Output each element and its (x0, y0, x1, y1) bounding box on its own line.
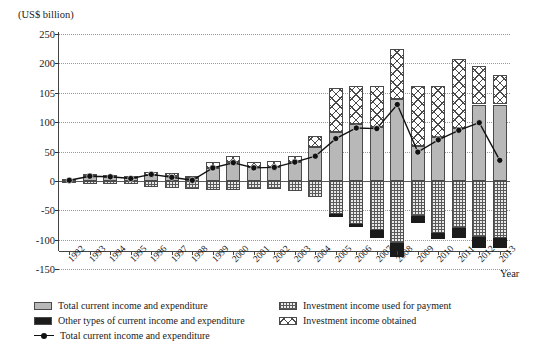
line-path-total-current-income-expenditure (69, 105, 500, 181)
y-axis-unit-label: (US$ billion) (18, 9, 74, 20)
line-marker-2012 (476, 120, 482, 126)
y-tick-label-50: 50 (45, 146, 56, 157)
line-marker-2007 (374, 126, 380, 132)
line-marker-2003 (292, 159, 298, 165)
y-axis-tick-labels: 250200105100500-50-100-150 (0, 34, 55, 269)
legend-label: Total current income and expenditure (60, 330, 210, 341)
line-marker-1992 (66, 177, 72, 183)
chart-legend: Total current income and expenditureOthe… (34, 300, 504, 348)
y-tick-label-100: 100 (39, 117, 55, 128)
line-marker-2000 (230, 160, 236, 166)
line-marker-2001 (251, 165, 257, 171)
line-marker-2013 (497, 157, 503, 163)
y-tick-label--50: -50 (41, 205, 55, 216)
legend-other-types-current-income-expenditure[interactable]: Other types of current income and expend… (34, 315, 245, 326)
line-marker-2009 (415, 149, 421, 155)
x-axis-tick-labels: 1992199319941995199619971998199920002001… (0, 251, 537, 299)
line-marker-1993 (87, 173, 93, 179)
legend-swatch-cross-hatch-icon (279, 317, 297, 325)
legend-swatch-dotted-hatch-icon (279, 302, 297, 310)
line-marker-2010 (435, 137, 441, 143)
line-marker-2002 (271, 164, 277, 170)
y-tick-label--100: -100 (36, 234, 55, 245)
line-marker-1998 (189, 177, 195, 183)
legend-investment-income-obtained[interactable]: Investment income obtained (279, 315, 416, 326)
line-marker-2004 (312, 153, 318, 159)
line-marker-2005 (333, 136, 339, 142)
legend-swatch-black-solid-icon (34, 317, 52, 325)
legend-swatch-line-marker-icon (34, 332, 54, 340)
legend-swatch-gray-solid-icon (34, 302, 52, 310)
line-marker-1994 (107, 174, 113, 180)
line-marker-1997 (169, 174, 175, 180)
y-tick-label-105: 105 (39, 87, 55, 98)
y-tick-label-250: 250 (39, 29, 55, 40)
x-axis-title: Year (500, 268, 519, 279)
line-marker-2011 (456, 127, 462, 133)
legend-total-current-income-expenditure-line[interactable]: Total current income and expenditure (34, 330, 210, 341)
line-series (59, 34, 510, 269)
line-marker-1999 (210, 165, 216, 171)
legend-label: Total current income and expenditure (58, 300, 208, 311)
line-marker-1996 (148, 171, 154, 177)
legend-investment-income-used-for-payment[interactable]: Investment income used for payment (279, 300, 451, 311)
line-marker-2008 (394, 101, 400, 107)
y-tick-label-200: 200 (39, 58, 55, 69)
legend-total-current-income-expenditure-bar[interactable]: Total current income and expenditure (34, 300, 208, 311)
legend-label: Other types of current income and expend… (58, 315, 245, 326)
legend-label: Investment income obtained (303, 315, 416, 326)
line-marker-1995 (128, 175, 134, 181)
chart-figure: (US$ billion) 250200105100500-50-100-150… (0, 0, 537, 361)
plot-area (59, 34, 510, 269)
line-marker-2006 (353, 125, 359, 131)
legend-label: Investment income used for payment (303, 300, 451, 311)
